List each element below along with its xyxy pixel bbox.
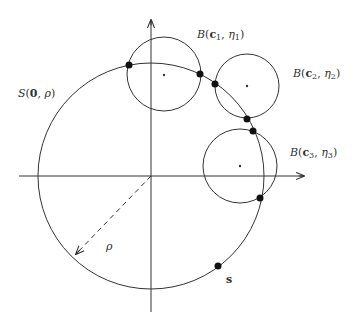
label-radius: ρ	[105, 240, 113, 253]
label-ball-3: B(c3, η3)	[289, 146, 337, 160]
radius-arrow	[76, 176, 151, 254]
center-c1	[163, 74, 165, 76]
point-s	[215, 263, 222, 270]
label-ball-2: B(c2, η2)	[292, 67, 340, 81]
center-c3	[239, 165, 241, 167]
label-ball-1: B(c1, η1)	[196, 28, 244, 42]
intersection-points	[126, 62, 264, 202]
label-point-s: s	[226, 273, 232, 286]
sphere-balls-diagram: S(0, ρ) B(c1, η1) B(c2, η2) B(c3, η3) ρ …	[0, 0, 355, 326]
center-c2	[246, 85, 248, 87]
label-sphere: S(0, ρ)	[18, 87, 55, 100]
